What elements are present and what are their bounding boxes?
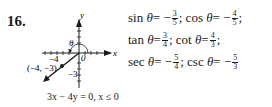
point-label: (−4, −3) bbox=[27, 63, 57, 73]
point-marker bbox=[60, 64, 64, 68]
sec-fraction: 54 bbox=[173, 54, 179, 71]
trig-values: sin θ = −35; cos θ = −45; tan θ = 34; co… bbox=[128, 7, 242, 73]
equation-line-2: tan θ = 34; cot θ = 43; bbox=[128, 29, 242, 51]
sec-name: sec bbox=[128, 51, 145, 73]
cos-fraction: 45 bbox=[232, 10, 238, 27]
tan-fraction: 34 bbox=[162, 32, 168, 49]
coordinate-graph: y x θ 0 −4 −3 (−4, −3) bbox=[0, 0, 128, 92]
y-tick-label: −3 bbox=[68, 69, 78, 79]
tan-name: tan bbox=[128, 29, 144, 51]
equation-line-3: sec θ = −54; csc θ = −53 bbox=[128, 51, 242, 73]
csc-fraction: 53 bbox=[232, 54, 238, 71]
x-axis-label: x bbox=[112, 48, 117, 58]
cos-name: cos bbox=[186, 7, 203, 29]
cot-fraction: 43 bbox=[210, 32, 216, 49]
y-axis-label: y bbox=[79, 10, 84, 20]
sin-fraction: 35 bbox=[172, 10, 178, 27]
sin-name: sin bbox=[128, 7, 143, 29]
graph-caption: 3x − 4y = 0, x ≤ 0 bbox=[47, 91, 119, 102]
equation-line-1: sin θ = −35; cos θ = −45; bbox=[128, 7, 242, 29]
zero-label: 0 bbox=[81, 53, 86, 63]
theta-label: θ bbox=[69, 38, 74, 48]
cot-name: cot bbox=[176, 29, 192, 51]
csc-name: csc bbox=[187, 51, 204, 73]
